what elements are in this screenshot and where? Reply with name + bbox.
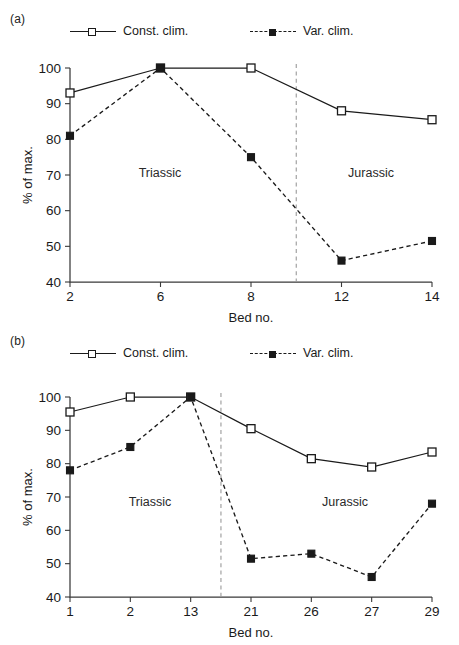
data-point-marker	[126, 393, 134, 401]
era-label-triassic: Triassic	[129, 495, 172, 509]
data-point-marker	[428, 116, 436, 124]
x-tick-label: 27	[364, 604, 379, 619]
x-tick-label: 8	[247, 289, 255, 304]
data-point-marker	[248, 154, 255, 161]
panel-a: (a) Const. clim. Var. clim. 405060708090…	[0, 0, 459, 322]
x-tick-label: 12	[334, 289, 349, 304]
x-tick-label: 26	[304, 604, 319, 619]
x-tick-label: 2	[66, 289, 74, 304]
x-tick-label: 14	[424, 289, 440, 304]
data-point-marker	[368, 574, 375, 581]
data-point-marker	[307, 455, 315, 463]
data-point-marker	[247, 64, 255, 72]
x-tick-label: 21	[243, 604, 258, 619]
y-tick-label: 50	[46, 556, 61, 571]
x-tick-label: 1	[66, 604, 74, 619]
y-tick-label: 70	[46, 490, 61, 505]
y-tick-label: 90	[46, 423, 61, 438]
x-tick-label: 6	[157, 289, 165, 304]
data-point-marker	[67, 467, 74, 474]
panel-b: (b) Const. clim. Var. clim. 405060708090…	[0, 322, 459, 644]
data-point-marker	[67, 132, 74, 139]
x-tick-label: 13	[183, 604, 198, 619]
data-point-marker	[338, 107, 346, 115]
y-tick-label: 90	[46, 96, 61, 111]
series-line-var-clim	[70, 68, 432, 261]
data-point-marker	[187, 394, 194, 401]
data-point-marker	[368, 463, 376, 471]
data-point-marker	[66, 89, 74, 97]
series-line-var-clim	[70, 397, 432, 577]
y-tick-label: 80	[46, 456, 61, 471]
data-point-marker	[157, 65, 164, 72]
data-point-marker	[429, 500, 436, 507]
plot-area-a: 4050607080901002681214Bed no.% of max.Tr…	[0, 0, 459, 322]
y-tick-label: 50	[46, 239, 61, 254]
y-tick-label: 100	[38, 390, 61, 405]
y-tick-label: 60	[46, 523, 61, 538]
y-tick-label: 60	[46, 203, 61, 218]
y-tick-label: 100	[38, 61, 61, 76]
data-point-marker	[66, 408, 74, 416]
x-axis-title: Bed no.	[229, 625, 274, 640]
era-label-triassic: Triassic	[139, 166, 182, 180]
data-point-marker	[338, 257, 345, 264]
x-tick-label: 2	[127, 604, 135, 619]
data-point-marker	[428, 448, 436, 456]
data-point-marker	[429, 237, 436, 244]
y-axis-title: % of max.	[20, 146, 35, 204]
era-label-jurassic: Jurassic	[348, 166, 394, 180]
series-line-const-clim	[70, 68, 432, 120]
y-axis-title: % of max.	[20, 468, 35, 526]
era-label-jurassic: Jurassic	[322, 495, 368, 509]
data-point-marker	[247, 425, 255, 433]
plot-area-b: 405060708090100121321262729Bed no.% of m…	[0, 322, 459, 644]
data-point-marker	[127, 444, 134, 451]
data-point-marker	[308, 550, 315, 557]
y-tick-label: 40	[46, 590, 61, 605]
x-tick-label: 29	[424, 604, 439, 619]
y-tick-label: 70	[46, 168, 61, 183]
data-point-marker	[248, 555, 255, 562]
y-tick-label: 40	[46, 275, 61, 290]
y-tick-label: 80	[46, 132, 61, 147]
